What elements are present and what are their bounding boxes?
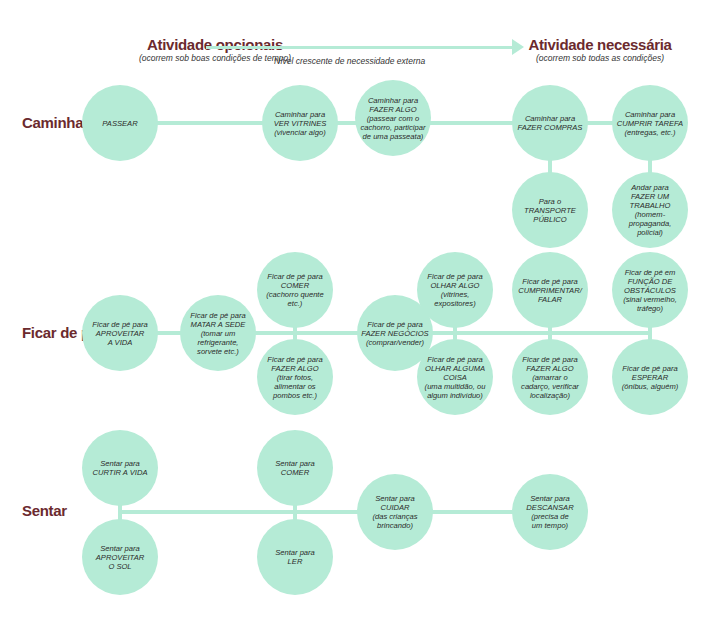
optional-activity-title: Atividade opcionais [140,36,290,53]
node-text: Sentar para LER [275,548,315,566]
node-esperar: Ficar de pé para ESPERAR (ônibus, alguém… [612,339,688,415]
node-text: Sentar para APROVEITAR O SOL [96,544,144,571]
node-sentar-ler: Sentar para LER [257,519,333,595]
necessary-activity-subtitle: (ocorrem sob todas as condições) [510,53,690,63]
node-transporte-publico: Para o TRANSPORTE PÚBLICO [512,172,588,248]
row-label-sentar: Sentar [22,502,67,519]
node-text: Caminhar para FAZER COMPRAS [518,114,583,132]
node-text: Sentar para CUIDAR (das crianças brincan… [372,494,417,530]
node-text: Andar para FAZER UM TRABALHO (homem-prop… [616,183,684,237]
node-olhar-algo: Ficar de pé para OLHAR ALGO (vitrines, e… [417,252,493,328]
row-label-caminhar: Caminhar [22,114,89,131]
node-text: Caminhar para CUMPRIR TAREFA (entregas, … [617,110,683,137]
node-matar-a-sede: Ficar de pé para MATAR A SEDE (tomar um … [180,295,256,371]
node-text: Ficar de pé para OLHAR ALGUMA COISA (uma… [425,355,486,400]
node-ver-vitrines: Caminhar para VER VITRINES (vivenciar al… [262,85,338,161]
node-text: Caminhar para FAZER ALGO (passear com o … [361,96,426,141]
node-text: Ficar de pé para COMER (cachorro quente … [266,272,323,308]
node-fazer-trabalho: Andar para FAZER UM TRABALHO (homem-prop… [612,172,688,248]
node-text: Sentar para DESCANSAR (precisa de um tem… [526,494,573,530]
node-passear: PASSEAR [82,85,158,161]
node-text: Ficar de pé para OLHAR ALGO (vitrines, e… [427,272,482,308]
necessary-activity-title: Atividade necessária [520,36,680,53]
node-ficar-comer: Ficar de pé para COMER (cachorro quente … [257,252,333,328]
node-text: Caminhar para VER VITRINES (vivenciar al… [274,110,327,137]
node-text: Ficar de pé para MATAR A SEDE (tomar um … [190,311,245,356]
node-caminhar-fazer-algo: Caminhar para FAZER ALGO (passear com o … [355,80,431,156]
node-text: Ficar de pé em FUNÇÃO DE OBSTÁCULOS (sin… [623,268,677,313]
node-fazer-compras: Caminhar para FAZER COMPRAS [512,85,588,161]
node-text: Ficar de pé para FAZER ALGO (tirar fotos… [267,355,322,400]
node-aproveitar-a-vida: Ficar de pé para APROVEITAR A VIDA [82,295,158,371]
connector [118,510,550,514]
node-cumprimentar: Ficar de pé para CUMPRIMENTAR/ FALAR [512,252,588,328]
node-text: Sentar para CURTIR A VIDA [93,459,148,477]
node-cuidar: Sentar para CUIDAR (das crianças brincan… [357,474,433,550]
node-curtir-a-vida: Sentar para CURTIR A VIDA [82,430,158,506]
node-text: Ficar de pé para ESPERAR (ônibus, alguém… [622,364,679,391]
necessity-arrow-line [206,46,516,49]
node-descansar: Sentar para DESCANSAR (precisa de um tem… [512,474,588,550]
node-text: Sentar para COMER [275,459,315,477]
node-text: Ficar de pé para CUMPRIMENTAR/ FALAR [518,277,582,304]
node-cumprir-tarefa: Caminhar para CUMPRIR TAREFA (entregas, … [612,85,688,161]
node-aproveitar-o-sol: Sentar para APROVEITAR O SOL [82,519,158,595]
node-text: PASSEAR [102,119,137,128]
node-ficar-fazer-algo-cadarco: Ficar de pé para FAZER ALGO (amarrar o c… [512,339,588,415]
node-text: Ficar de pé para FAZER NEGÓCIOS (comprar… [361,320,428,347]
node-ficar-fazer-algo-fotos: Ficar de pé para FAZER ALGO (tirar fotos… [257,339,333,415]
node-olhar-alguma-coisa: Ficar de pé para OLHAR ALGUMA COISA (uma… [417,339,493,415]
node-text: Para o TRANSPORTE PÚBLICO [524,197,576,224]
node-text: Ficar de pé para APROVEITAR A VIDA [92,320,147,347]
node-text: Ficar de pé para FAZER ALGO (amarrar o c… [521,355,579,400]
node-sentar-comer: Sentar para COMER [257,430,333,506]
necessity-axis-label: Nível crescente de necessidade externa [274,56,425,66]
node-obstaculos: Ficar de pé em FUNÇÃO DE OBSTÁCULOS (sin… [612,252,688,328]
